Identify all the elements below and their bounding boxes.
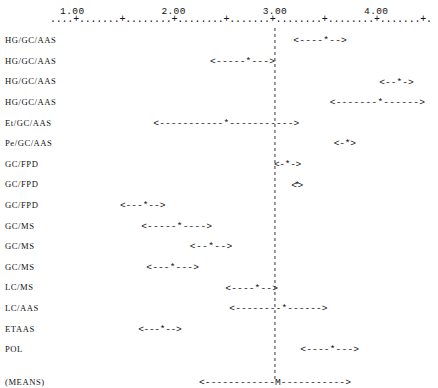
confidence-interval-bar: <*> — [291, 180, 303, 191]
axis-scale-line: ....+.......+........+........+.......+.… — [50, 14, 432, 25]
confidence-interval-bar: <--------*------> — [229, 303, 328, 314]
confidence-interval-bar: <---*--> — [120, 200, 166, 211]
confidence-interval-plot: 1.002.003.004.00 ....+.......+........+.… — [0, 0, 438, 388]
confidence-interval-bar: <-----*----> — [141, 221, 212, 232]
axis-scale-line-text: ....+.......+........+........+.......+.… — [50, 14, 432, 25]
confidence-interval-bar: <-----*---> — [210, 56, 275, 67]
row-label: GC/MS — [5, 241, 35, 251]
row-label: (MEANS) — [5, 377, 45, 387]
confidence-interval-bar: <----*---> — [300, 344, 359, 355]
row-label: Et/GC/AAS — [5, 118, 52, 128]
confidence-interval-bar: <-------*------> — [330, 97, 425, 108]
row-label: Pe/GC/AAS — [5, 138, 52, 148]
row-label: HG/GC/AAS — [5, 35, 56, 45]
confidence-interval-bar: <---*--> — [138, 324, 182, 335]
row-label: HG/GC/AAS — [5, 97, 56, 107]
confidence-interval-bar: <-*-> — [274, 159, 302, 170]
row-label: GC/FPD — [5, 159, 38, 169]
row-label: GC/FPD — [5, 179, 38, 189]
row-label: LC/AAS — [5, 303, 39, 313]
row-label: HG/GC/AAS — [5, 56, 56, 66]
row-label: GC/FPD — [5, 200, 38, 210]
confidence-interval-bar: <--*--> — [190, 241, 233, 252]
confidence-interval-bar: <---*---> — [146, 262, 199, 273]
confidence-interval-bar: <-----------*-----------> — [153, 118, 299, 129]
confidence-interval-bar: <-*> — [334, 138, 357, 149]
confidence-interval-bar: <--*-> — [379, 77, 414, 88]
row-label: LC/MS — [5, 282, 34, 292]
row-label: GC/MS — [5, 221, 35, 231]
confidence-interval-bar: <----*--> — [225, 283, 278, 294]
confidence-interval-bar: <----*--> — [293, 35, 347, 46]
row-label: HG/GC/AAS — [5, 76, 56, 86]
row-label: POL — [5, 344, 23, 354]
row-label: ETAAS — [5, 324, 35, 334]
confidence-interval-bar: <------------M-----------> — [199, 377, 351, 388]
row-label: GC/MS — [5, 262, 35, 272]
